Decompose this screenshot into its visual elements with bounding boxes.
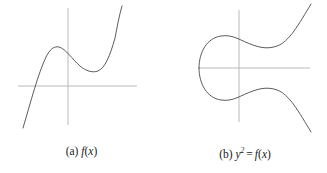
- subfigure-b-svg: [163, 0, 327, 135]
- subfigure-b-plot: [163, 0, 327, 135]
- subfigure-b-equals-sign: =: [244, 148, 255, 160]
- subfigure-a-svg: [0, 0, 163, 135]
- figure-container: (a) f(x) (b) y2=f(x): [0, 0, 327, 173]
- subfigure-a-close-paren: ): [93, 145, 97, 157]
- subfigure-a-label: (a): [66, 145, 79, 157]
- lower-branch-curve-b: [199, 68, 311, 132]
- cubic-curve-a: [23, 6, 122, 128]
- subfigure-a-caption: (a) f(x): [0, 138, 163, 164]
- subfigure-b-caption: (b) y2=f(x): [163, 138, 327, 164]
- subfigure-b-close-paren: ): [267, 148, 271, 160]
- subfigure-b-label: (b): [219, 148, 232, 160]
- subfigure-a-plot: [0, 0, 163, 135]
- upper-branch-curve-b: [199, 4, 311, 68]
